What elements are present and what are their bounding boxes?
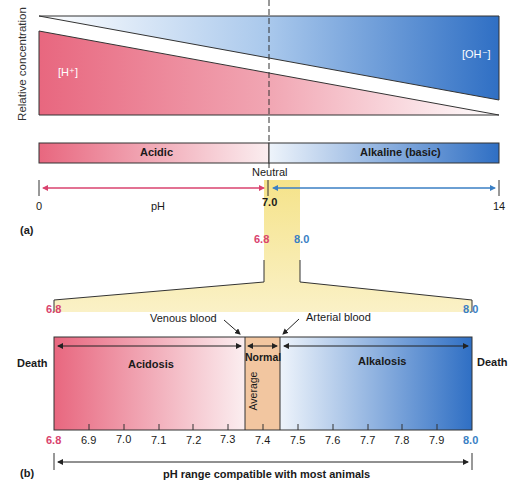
acidosis-region — [54, 337, 245, 430]
normal-label: Normal — [245, 351, 281, 363]
ph-max-label: 14 — [493, 200, 505, 212]
alkalosis-label: Alkalosis — [358, 355, 406, 367]
venous-blood-label: Venous blood — [150, 312, 217, 324]
tick-label: 7.9 — [429, 434, 444, 446]
arterial-blood-label: Arterial blood — [306, 311, 371, 323]
tick-label: 6.8 — [46, 434, 61, 446]
tick-label: 6.9 — [81, 434, 96, 446]
ph-neutral-value: 7.0 — [262, 196, 277, 208]
tick-label: 8.0 — [463, 434, 478, 446]
ph-axis-label: pH — [151, 200, 165, 212]
tick-label: 7.7 — [360, 434, 375, 446]
alkaline-label: Alkaline (basic) — [360, 146, 441, 158]
oh-ion-label: [OH⁻] — [462, 48, 491, 61]
alkalosis-region — [280, 337, 472, 430]
tick-label: 7.0 — [116, 433, 131, 445]
tick-label: 7.2 — [186, 434, 201, 446]
tick-label: 7.1 — [151, 434, 166, 446]
neutral-label: Neutral — [252, 166, 287, 178]
panel-b-label: (b) — [20, 467, 34, 479]
range-high-label: 8.0 — [463, 303, 478, 315]
acidosis-label: Acidosis — [128, 358, 174, 370]
h-ion-label: [H⁺] — [58, 66, 78, 79]
tick-label: 7.5 — [290, 434, 305, 446]
zoom-low-label: 6.8 — [254, 233, 269, 245]
acidic-label: Acidic — [140, 146, 173, 158]
range-caption: pH range compatible with most animals — [163, 468, 370, 480]
tick-label: 7.6 — [325, 434, 340, 446]
panel-a-label: (a) — [20, 224, 33, 236]
death-left-label: Death — [17, 357, 48, 369]
ph-min-label: 0 — [36, 200, 42, 212]
tick-label: 7.4 — [255, 434, 270, 446]
range-low-label: 6.8 — [46, 303, 61, 315]
y-axis-label: Relative concentration — [16, 4, 28, 124]
tick-label: 7.3 — [220, 433, 235, 445]
zoom-high-label: 8.0 — [294, 233, 309, 245]
tick-label: 7.8 — [394, 434, 409, 446]
death-right-label: Death — [477, 356, 508, 368]
average-label: Average — [247, 372, 259, 411]
